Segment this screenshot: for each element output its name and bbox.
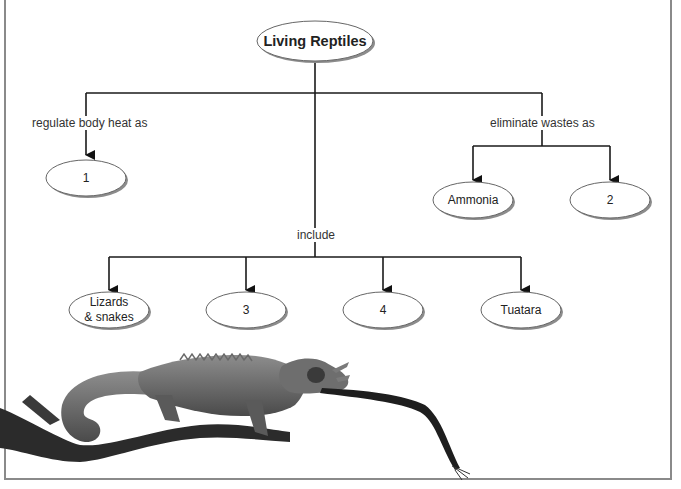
node-ammonia: Ammonia xyxy=(433,182,513,218)
node-tuatara: Tuatara xyxy=(481,292,561,328)
node-label: Ammonia xyxy=(448,193,499,208)
chameleon-illustration xyxy=(0,354,470,480)
concept-map-connectors xyxy=(0,0,681,489)
node-blank-3: 3 xyxy=(206,292,286,328)
node-ellipses xyxy=(46,21,652,330)
node-label-line2: & snakes xyxy=(84,310,133,325)
link-label-include: include xyxy=(295,228,337,242)
link-label-eliminate-wastes: eliminate wastes as xyxy=(488,116,597,130)
node-blank-4: 4 xyxy=(343,292,423,328)
node-blank-2: 2 xyxy=(570,182,650,218)
root-node-living-reptiles: Living Reptiles xyxy=(257,21,373,61)
connector-lines xyxy=(86,62,610,290)
root-node-label: Living Reptiles xyxy=(263,34,366,49)
node-label-line1: Lizards xyxy=(90,295,129,310)
link-label-regulate-heat: regulate body heat as xyxy=(30,116,149,130)
node-label: 2 xyxy=(607,193,614,208)
node-lizards-snakes: Lizards & snakes xyxy=(69,292,149,328)
node-label: Tuatara xyxy=(501,303,542,318)
node-label: 1 xyxy=(83,171,90,186)
node-blank-1: 1 xyxy=(46,160,126,196)
node-label: 4 xyxy=(380,303,387,318)
node-label: 3 xyxy=(243,303,250,318)
